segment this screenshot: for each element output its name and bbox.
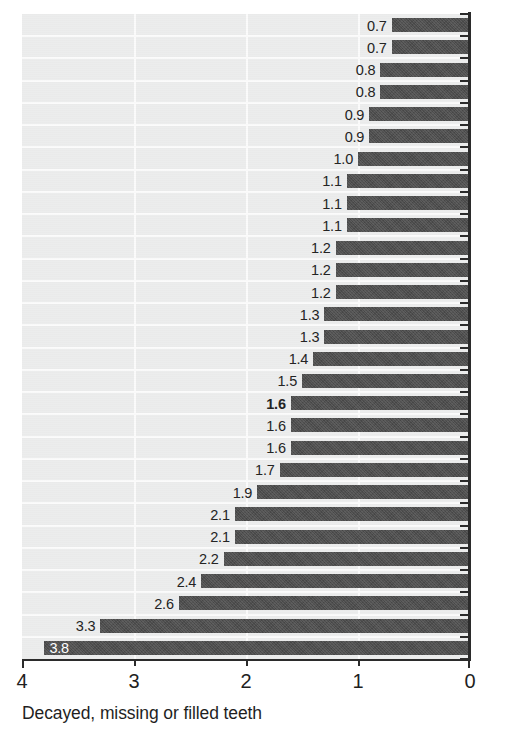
gridline-horizontal — [22, 280, 470, 282]
bar — [100, 619, 470, 633]
bar — [224, 552, 470, 566]
bar — [179, 596, 470, 610]
bar — [369, 129, 470, 143]
bar-value-label: 1.3 — [284, 308, 319, 322]
gridline-horizontal — [22, 614, 470, 616]
y-axis-tick — [460, 80, 469, 82]
bar-value-label: 1.2 — [296, 263, 331, 277]
y-axis-tick — [460, 480, 469, 482]
bar-value-label: 0.7 — [352, 19, 387, 33]
gridline-horizontal — [22, 324, 470, 326]
bar — [291, 396, 470, 410]
bar-value-label: 1.4 — [273, 352, 308, 366]
y-axis-tick — [460, 413, 469, 415]
y-axis-tick — [460, 169, 469, 171]
gridline-horizontal — [22, 57, 470, 59]
bar-value-label: 1.0 — [318, 152, 353, 166]
bar — [324, 307, 470, 321]
gridline-horizontal — [22, 146, 470, 148]
bar — [336, 263, 470, 277]
y-axis-tick — [460, 458, 469, 460]
y-axis-tick — [460, 547, 469, 549]
bar-value-label: 2.4 — [161, 575, 196, 589]
gridline-horizontal — [22, 235, 470, 237]
x-axis-tick-label: 0 — [450, 670, 490, 692]
bar-value-label: 0.9 — [329, 130, 364, 144]
bar — [369, 107, 470, 121]
bar — [280, 463, 470, 477]
gridline-horizontal — [22, 35, 470, 37]
y-axis-tick — [460, 302, 469, 304]
gridline-horizontal — [22, 369, 470, 371]
gridline-horizontal — [22, 636, 470, 638]
y-axis-tick — [460, 502, 469, 504]
gridline-horizontal — [22, 391, 470, 393]
bar-value-label: 1.1 — [307, 219, 342, 233]
bar — [380, 63, 470, 77]
x-axis-tick — [134, 659, 136, 666]
gridline-horizontal — [22, 258, 470, 260]
bar — [336, 285, 470, 299]
bar — [235, 530, 470, 544]
y-axis-tick — [460, 569, 469, 571]
y-axis-tick — [460, 525, 469, 527]
gridline-horizontal — [22, 302, 470, 304]
bar-value-label: 2.1 — [195, 508, 230, 522]
bar — [257, 485, 470, 499]
x-axis-tick — [358, 659, 360, 666]
y-axis-tick — [460, 658, 469, 660]
gridline-horizontal — [22, 458, 470, 460]
bar-value-label: 1.2 — [296, 241, 331, 255]
gridline-horizontal — [22, 591, 470, 593]
bar-value-label: 2.6 — [139, 597, 174, 611]
bar — [313, 352, 470, 366]
bar-value-label: 0.9 — [329, 108, 364, 122]
plot-area: 0.70.70.80.80.90.91.01.11.11.11.21.21.21… — [22, 14, 470, 659]
gridline-vertical — [134, 14, 136, 659]
gridline-horizontal — [22, 347, 470, 349]
gridline-horizontal — [22, 213, 470, 215]
bar — [380, 85, 470, 99]
gridline-horizontal — [22, 124, 470, 126]
y-axis-tick — [460, 213, 469, 215]
y-axis-tick — [460, 391, 469, 393]
bar-value-label: 1.1 — [307, 174, 342, 188]
bar-value-label: 1.6 — [251, 441, 286, 455]
gridline-horizontal — [22, 80, 470, 82]
bar-value-label: 0.7 — [352, 41, 387, 55]
y-axis-line — [468, 12, 471, 661]
x-axis-title: Decayed, missing or filled teeth — [22, 703, 262, 723]
gridline-horizontal — [22, 102, 470, 104]
bar — [324, 330, 470, 344]
y-axis-tick — [460, 280, 469, 282]
gridline-horizontal — [22, 169, 470, 171]
bar — [392, 40, 470, 54]
bar-value-label: 1.2 — [296, 286, 331, 300]
bar-value-label: 2.2 — [184, 552, 219, 566]
gridline-horizontal — [22, 547, 470, 549]
x-axis-tick — [246, 659, 248, 666]
bar-value-label: 1.9 — [217, 486, 252, 500]
bar — [392, 18, 470, 32]
bar — [347, 218, 470, 232]
y-axis-tick — [460, 636, 469, 638]
bar — [235, 507, 470, 521]
x-axis-tick — [468, 659, 470, 668]
gridline-horizontal — [22, 525, 470, 527]
x-axis-tick-label: 1 — [338, 670, 378, 692]
y-axis-tick — [460, 324, 469, 326]
gridline-horizontal — [22, 191, 470, 193]
bar — [302, 374, 470, 388]
bar — [347, 174, 470, 188]
y-axis-tick — [460, 591, 469, 593]
y-axis-tick — [460, 57, 469, 59]
y-axis-tick — [460, 235, 469, 237]
y-axis-tick — [460, 191, 469, 193]
y-axis-tick — [460, 124, 469, 126]
x-axis-tick-label: 4 — [2, 670, 42, 692]
gridline-horizontal — [22, 502, 470, 504]
y-axis-tick — [460, 13, 469, 15]
y-axis-tick — [460, 369, 469, 371]
bar — [291, 418, 470, 432]
bar-value-label: 0.8 — [340, 63, 375, 77]
